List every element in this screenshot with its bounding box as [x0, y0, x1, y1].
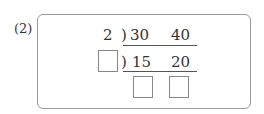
quotient-20: 20: [171, 54, 190, 70]
division-line-2: [123, 71, 197, 72]
dividend-40: 40: [171, 27, 190, 43]
answer-blank-box-1[interactable]: [133, 76, 153, 98]
divisor-blank-box[interactable]: [98, 50, 118, 72]
division-bracket-1: ): [121, 27, 127, 43]
division-line-1: [123, 45, 197, 46]
answer-blank-box-2[interactable]: [169, 76, 189, 98]
quotient-15: 15: [132, 54, 151, 70]
dividend-30: 30: [130, 27, 149, 43]
division-bracket-2: ): [121, 54, 127, 70]
problem-label: (2): [14, 21, 32, 36]
divisor-2: 2: [103, 27, 113, 43]
